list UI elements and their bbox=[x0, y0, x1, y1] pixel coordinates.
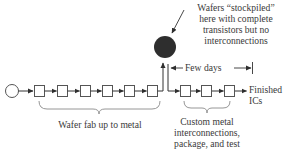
stockpile-line-3: transistors but no bbox=[190, 24, 282, 35]
custom-label: Custom metal interconnections, package, … bbox=[170, 116, 244, 149]
stockpile-node bbox=[154, 36, 176, 58]
fab-step-4 bbox=[103, 86, 113, 97]
custom-step-1 bbox=[181, 86, 191, 97]
fab-step-3 bbox=[81, 86, 91, 97]
custom-line-3: package, and test bbox=[170, 138, 244, 149]
fab-step-5 bbox=[125, 86, 135, 97]
fab-step-6 bbox=[148, 86, 158, 97]
start-node bbox=[6, 85, 19, 98]
fab-step-2 bbox=[58, 86, 68, 97]
custom-step-3 bbox=[225, 86, 235, 97]
few-days-label: Few days bbox=[185, 62, 222, 73]
custom-brace bbox=[184, 101, 230, 113]
finished-line-1: Finished bbox=[249, 84, 282, 95]
finished-line-2: ICs bbox=[249, 95, 282, 106]
custom-line-1: Custom metal bbox=[170, 116, 244, 127]
finished-ics-label: Finished ICs bbox=[249, 84, 282, 106]
custom-step-2 bbox=[202, 86, 212, 97]
stockpile-line-1: Wafers “stockpiled” bbox=[190, 2, 282, 13]
fab-label: Wafer fab up to metal bbox=[50, 119, 150, 130]
custom-line-2: interconnections, bbox=[170, 127, 244, 138]
fab-brace bbox=[39, 101, 160, 114]
stockpile-line-4: interconnections bbox=[190, 35, 282, 46]
stockpile-line-2: here with complete bbox=[190, 13, 282, 24]
stockpile-annotation: Wafers “stockpiled” here with complete t… bbox=[190, 2, 282, 46]
custom-step-boxes bbox=[181, 86, 235, 97]
fab-step-1 bbox=[35, 86, 45, 97]
